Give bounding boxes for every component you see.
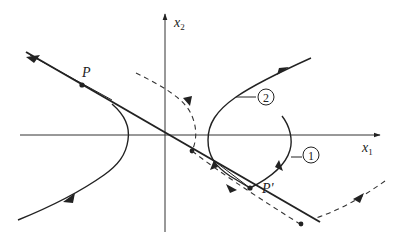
dashed-trajectory-right (316, 181, 385, 218)
point-P-prime (247, 185, 252, 190)
point-P-prime-label: P' (261, 181, 275, 196)
phase-plane-diagram: x1 x2 2 1 P P' (0, 0, 401, 245)
arrow-curve-2-top-icon (277, 67, 289, 75)
point-P (79, 82, 84, 87)
left-branch-trajectory (18, 104, 128, 220)
curve-1-label: 1 (308, 149, 314, 163)
x1-axis-label: x1 (361, 140, 373, 157)
asymptote-line (30, 55, 112, 100)
dashed-trajectory-upper (136, 73, 196, 151)
dashed-end-point (299, 222, 304, 227)
point-P-label: P (81, 65, 91, 80)
x2-axis-label: x2 (173, 15, 185, 32)
curve-2-label: 2 (263, 91, 269, 105)
curve-2-approach (213, 160, 250, 188)
arrow-dashed-lower-icon (226, 184, 237, 193)
arrow-dashed-right-icon (353, 193, 364, 203)
curve-1-trajectory (250, 116, 291, 188)
